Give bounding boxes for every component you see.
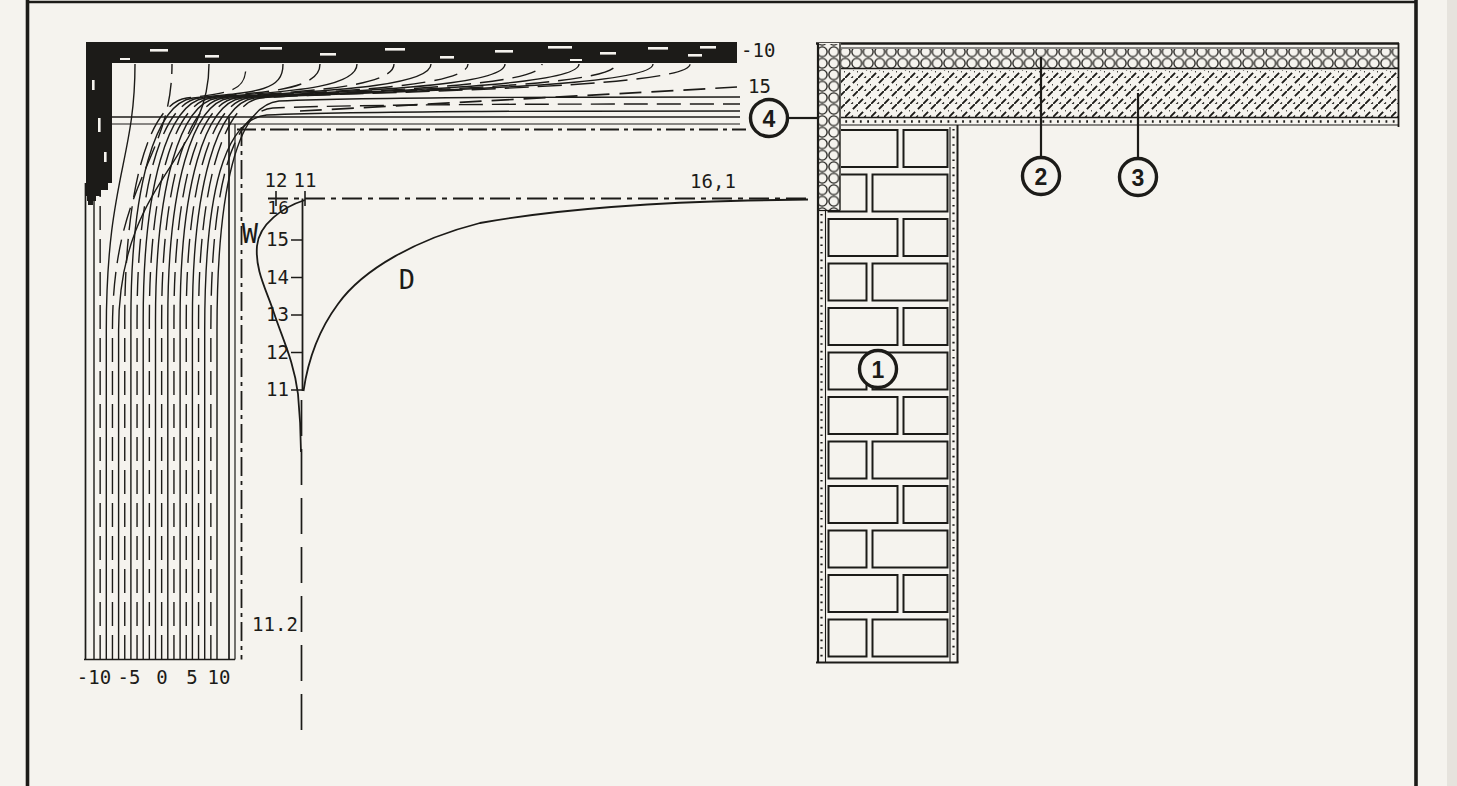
callout-label-4: 4 [763,106,776,132]
construction-detail: 1 2 3 4 [751,43,1400,663]
isotherm-line [186,64,616,659]
isotherm-line [131,64,283,659]
temperature-profile-plot: 12 11 16,1 16 15 14 13 12 11 W D 11.2 [242,169,812,735]
isotherm-plot: -10 15 -10 -5 0 5 10 [77,39,775,688]
curve-D-label: D [399,264,415,295]
brick-wall [826,127,950,662]
far-field-value-label: 16,1 [690,170,736,192]
isotherm-line [192,64,653,659]
x-tick--10: -10 [77,666,111,688]
x-tick-10: 10 [208,666,231,688]
band-left [86,42,112,183]
thermal-bridge-diagram: -10 15 -10 -5 0 5 10 12 11 16,1 16 15 1 [0,0,1457,786]
exterior-temp-label: -10 [741,39,775,61]
x-tick-0: 0 [156,666,167,688]
y-label-14: 14 [266,266,289,288]
isotherm-line [180,64,579,659]
bottom-value-label: 11.2 [252,613,298,635]
isotherm-line [156,64,432,659]
top-tick-label-11: 11 [294,169,317,191]
x-tick-5: 5 [186,666,197,688]
y-label-11: 11 [266,378,289,400]
isotherm-15-label: 15 [748,75,771,97]
callout-label-1: 1 [872,357,885,383]
y-label-15: 15 [266,228,289,250]
scanned-figure-page: -10 15 -10 -5 0 5 10 12 11 16,1 16 15 1 [0,0,1457,786]
isotherm-line [211,104,740,659]
isotherm-lines [94,64,740,659]
roof-slab [816,43,1399,127]
isotherm-x-axis-labels: -10 -5 0 5 10 [77,666,231,688]
isotherm-line [162,64,468,659]
x-tick--5: -5 [118,666,141,688]
curve-W-label: W [242,218,259,249]
band-top [86,42,737,63]
isotherm-line [119,64,209,659]
scan-edge-shadow [1447,0,1457,786]
top-tick-label-12: 12 [265,169,288,191]
callout-label-2: 2 [1035,164,1048,190]
curve-D [304,200,809,392]
roof-insulation-layer [838,49,1399,68]
callout-label-3: 3 [1132,165,1145,191]
wall-head-insulation [817,43,841,211]
concrete-slab-layer [838,70,1399,117]
